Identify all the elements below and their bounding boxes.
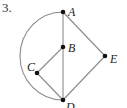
edges: [20, 12, 105, 100]
node-A: [61, 10, 66, 15]
label-C: C: [27, 60, 36, 74]
node-B: [61, 45, 66, 50]
label-D: D: [65, 100, 75, 108]
label-E: E: [109, 52, 118, 66]
node-D: [61, 98, 66, 103]
edge-B-C: [37, 47, 63, 73]
node-E: [103, 54, 108, 59]
edge-E-D: [63, 56, 105, 100]
nodes: [35, 10, 108, 103]
edge-C-D: [37, 73, 63, 100]
label-A: A: [67, 5, 76, 19]
edge-arc-A-D: [20, 12, 63, 100]
node-C: [35, 71, 40, 76]
label-B: B: [68, 41, 76, 55]
graph-diagram: A B C D E: [0, 0, 127, 108]
